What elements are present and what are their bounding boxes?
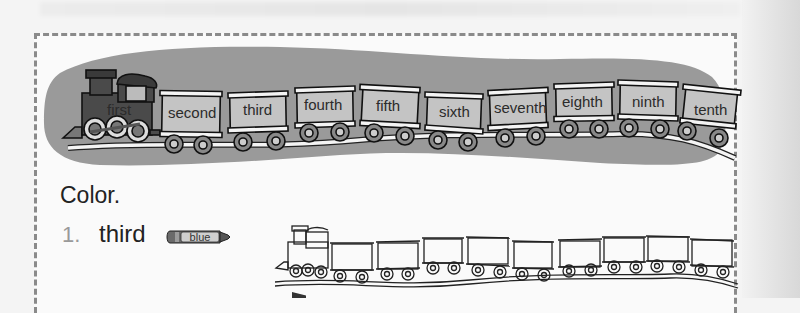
outline-car-2 — [376, 241, 420, 280]
outline-car-6 — [558, 239, 602, 277]
car-label-first: first — [107, 101, 131, 118]
banner-car-4 — [295, 86, 355, 142]
outline-engine — [276, 226, 328, 278]
outline-car-1 — [330, 243, 374, 283]
car-label-ninth: ninth — [632, 93, 665, 110]
car-label-second: second — [168, 104, 216, 121]
car-label-seventh: seventh — [494, 99, 547, 116]
outline-car-4 — [466, 237, 510, 278]
car-label-fourth: fourth — [304, 96, 342, 113]
outline-car-3 — [422, 238, 464, 274]
crayon-color-label: blue — [181, 229, 219, 245]
item-number: 1. — [62, 222, 80, 248]
car-label-sixth: sixth — [439, 103, 470, 120]
car-label-third: third — [243, 101, 272, 118]
outline-train-to-color[interactable] — [270, 210, 745, 290]
outline-car-9 — [690, 239, 734, 278]
banner-car-7 — [488, 87, 548, 147]
item-ordinal-word: third — [99, 220, 146, 248]
outline-car-7 — [602, 237, 646, 273]
outline-car-8 — [646, 236, 690, 273]
car-label-fifth: fifth — [376, 97, 400, 114]
car-label-eighth: eighth — [562, 93, 603, 110]
car-label-tenth: tenth — [694, 101, 727, 118]
instructions-heading: Color. — [60, 182, 120, 209]
banner-car-6 — [425, 92, 483, 151]
